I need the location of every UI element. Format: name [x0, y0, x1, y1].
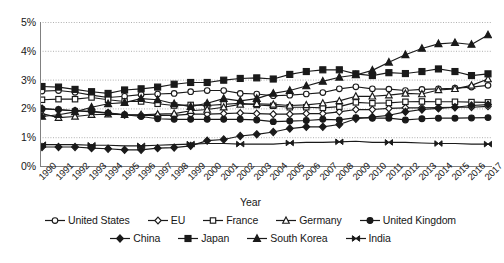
legend-item-united-states[interactable]: United States [45, 214, 130, 226]
y-axis-tick: 4% [2, 46, 36, 56]
chart-legend: United StatesEUFranceGermanyUnited Kingd… [0, 211, 501, 247]
legend-label: France [226, 214, 258, 226]
legend-label: China [133, 232, 160, 244]
plot-area [40, 22, 492, 167]
y-axis-tick: 3% [2, 75, 36, 85]
open-triangle-marker-icon [276, 215, 296, 226]
legend-row-2: ChinaJapanSouth KoreaIndia [0, 229, 501, 247]
y-axis-tick: 2% [2, 103, 36, 113]
y-axis-labels: 0%1%2%3%4%5% [0, 0, 36, 175]
legend-item-japan[interactable]: Japan [178, 232, 229, 244]
legend-row-1: United StatesEUFranceGermanyUnited Kingd… [0, 211, 501, 229]
y-axis-tick: 5% [2, 17, 36, 27]
filled-triangle-marker-icon [247, 233, 267, 244]
legend-item-india[interactable]: India [346, 232, 391, 244]
legend-label: Japan [201, 232, 229, 244]
filled-square-marker-icon [178, 233, 198, 244]
legend-item-france[interactable]: France [203, 214, 258, 226]
legend-label: South Korea [270, 232, 327, 244]
y-axis-tick: 0% [2, 161, 36, 171]
legend-label: United States [68, 214, 130, 226]
legend-item-united-kingdom[interactable]: United Kingdom [360, 214, 456, 226]
legend-item-eu[interactable]: EU [148, 214, 185, 226]
bowtie-marker-icon [346, 233, 366, 244]
legend-label: EU [171, 214, 185, 226]
x-axis-title: Year [0, 196, 501, 208]
filled-diamond-marker-icon [110, 233, 130, 244]
legend-item-china[interactable]: China [110, 232, 160, 244]
open-square-marker-icon [203, 215, 223, 226]
legend-label: India [369, 232, 391, 244]
legend-label: United Kingdom [383, 214, 456, 226]
legend-item-south-korea[interactable]: South Korea [247, 232, 327, 244]
chart-svg [40, 22, 492, 167]
open-circle-marker-icon [45, 215, 65, 226]
legend-item-germany[interactable]: Germany [276, 214, 341, 226]
legend-label: Germany [299, 214, 341, 226]
filled-circle-marker-icon [360, 215, 380, 226]
open-diamond-marker-icon [148, 215, 168, 226]
y-axis-tick: 1% [2, 132, 36, 142]
